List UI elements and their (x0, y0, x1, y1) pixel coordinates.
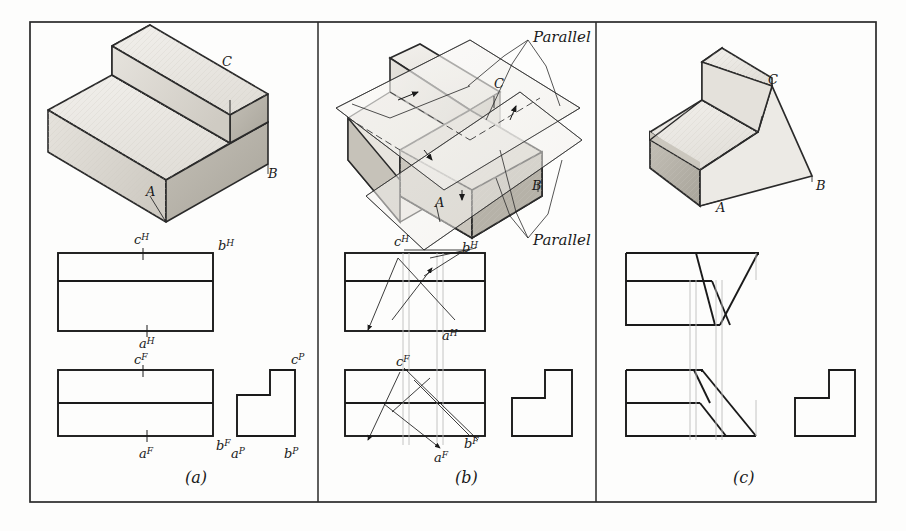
parallel-label-bottom: Parallel (532, 231, 591, 249)
vertex-label-b: B (815, 178, 826, 193)
vertex-label-a: A (145, 184, 155, 199)
vertex-label-a: A (715, 200, 725, 215)
vertex-label-c: C (768, 72, 778, 87)
vertex-label-b: B (531, 178, 542, 193)
vertex-label-b: B (267, 166, 278, 181)
figure-plate: C A B cH bH aH cF bF aF cP aP bP C A B P… (0, 0, 906, 531)
parallel-label-top: Parallel (532, 28, 591, 46)
caption-a: (a) (185, 468, 207, 487)
vertex-label-c: C (494, 76, 504, 91)
vertex-label-c: C (222, 54, 232, 69)
caption-c: (c) (733, 468, 754, 487)
drawing-canvas: C A B cH bH aH cF bF aF cP aP bP C A B P… (0, 0, 906, 531)
caption-b: (b) (455, 468, 478, 487)
vertex-label-a: A (434, 195, 444, 210)
